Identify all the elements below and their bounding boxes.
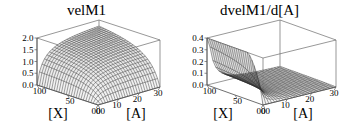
svg-text:0.1: 0.1 <box>192 68 203 78</box>
svg-text:0.4: 0.4 <box>192 33 204 43</box>
surface-plot-svg-left: 0.00.51.01.52.0100500000102030[X][A] <box>0 0 173 126</box>
figure-root: velM1 0.00.51.01.52.0100500000102030[X][… <box>0 0 346 126</box>
svg-text:[A]: [A] <box>293 106 312 121</box>
svg-text:100: 100 <box>203 86 217 96</box>
svg-text:1.5: 1.5 <box>22 45 34 55</box>
svg-text:00: 00 <box>92 106 102 116</box>
svg-text:0.2: 0.2 <box>192 57 203 67</box>
svg-text:100: 100 <box>33 86 47 96</box>
svg-text:00: 00 <box>257 106 267 116</box>
svg-text:50: 50 <box>66 96 76 106</box>
svg-text:[X]: [X] <box>48 106 67 121</box>
surface-plot-panel-left: velM1 0.00.51.01.52.0100500000102030[X][… <box>0 0 173 126</box>
svg-text:50: 50 <box>233 96 243 106</box>
surface-plot-panel-right: dvelM1/d[A] 0.00.10.20.30.41005000001020… <box>173 0 346 126</box>
svg-text:30: 30 <box>330 88 340 98</box>
svg-text:10: 10 <box>281 100 291 110</box>
svg-text:2.0: 2.0 <box>22 33 34 43</box>
svg-text:0.3: 0.3 <box>192 45 204 55</box>
svg-text:20: 20 <box>305 94 315 104</box>
svg-text:30: 30 <box>154 88 164 98</box>
svg-text:10: 10 <box>112 100 122 110</box>
svg-text:[A]: [A] <box>126 106 145 121</box>
svg-text:1.0: 1.0 <box>22 57 34 67</box>
surface-plot-svg-right: 0.00.10.20.30.4100500000102030[X][A] <box>173 0 346 126</box>
svg-text:20: 20 <box>133 94 143 104</box>
svg-text:[X]: [X] <box>213 106 232 121</box>
svg-text:0.5: 0.5 <box>22 68 34 78</box>
